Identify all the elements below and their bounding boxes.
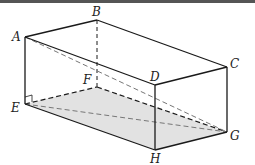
- vertex-label-h: H: [149, 152, 161, 165]
- vertex-label-g: G: [230, 129, 240, 143]
- cuboid-diagram: A B C D E F G H: [0, 0, 255, 165]
- edge-bc: [97, 20, 227, 67]
- vertex-label-a: A: [11, 30, 21, 44]
- edge-ab: [25, 20, 97, 37]
- edge-cd: [155, 67, 227, 85]
- vertex-label-b: B: [91, 5, 101, 19]
- right-angle-marker-e: [25, 95, 32, 102]
- shaded-face-efgh: [25, 87, 227, 150]
- vertex-label-f: F: [82, 73, 92, 87]
- vertex-label-c: C: [230, 57, 239, 71]
- vertex-label-e: E: [10, 101, 20, 115]
- vertex-label-d: D: [149, 70, 160, 84]
